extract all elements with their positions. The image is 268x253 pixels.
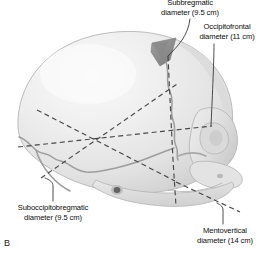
label-occipitofrontal: Occipitofrontal diameter (11 cm) [186,22,268,41]
leader-suboccipitobregmatic [45,178,53,201]
label-occipitofrontal-line2: diameter (11 cm) [186,32,268,42]
label-mentovertical-line1: Mentovertical [182,226,268,236]
maxilla [190,161,243,189]
label-mentovertical: Mentovertical diameter (14 cm) [182,226,268,245]
label-suboccipitobregmatic-line1: Suboccipitobregmatic [1,203,105,213]
label-occipitofrontal-line1: Occipitofrontal [186,22,268,32]
label-suboccipitobregmatic-line2: diameter (9.5 cm) [1,213,105,223]
label-subbregmatic: Subbregmatic diameter (9.5 cm) [134,0,246,17]
label-mentovertical-line2: diameter (14 cm) [182,236,268,246]
label-subbregmatic-line2: diameter (9.5 cm) [134,8,246,18]
panel-letter: B [4,238,10,248]
leader-mentovertical [217,203,223,224]
label-subbregmatic-line1: Subbregmatic [134,0,246,8]
figure-panel: Subbregmatic diameter (9.5 cm) Occipitof… [0,0,268,253]
external-acoustic-meatus [111,185,123,195]
label-suboccipitobregmatic: Suboccipitobregmatic diameter (9.5 cm) [1,203,105,222]
